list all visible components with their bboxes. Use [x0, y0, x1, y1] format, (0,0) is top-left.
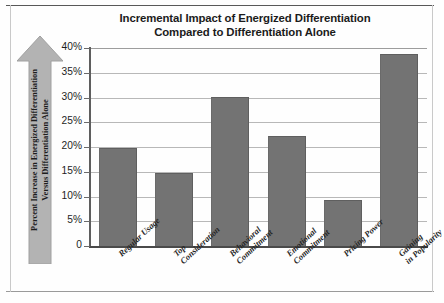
- y-axis-tick-label: 20%: [48, 140, 82, 151]
- bar: [99, 148, 137, 246]
- y-axis-tick: [84, 197, 90, 198]
- plot-area: [90, 48, 427, 246]
- gridline: [90, 197, 427, 198]
- x-axis-tick-labels: Regular UsageTopConsiderationBehavioralC…: [0, 246, 440, 303]
- y-axis-tick-label: 10%: [48, 190, 82, 201]
- chart-title-line-1: Incremental Impact of Energized Differen…: [60, 12, 430, 26]
- gridline: [90, 122, 427, 123]
- y-axis-tick: [84, 147, 90, 148]
- y-axis-tick-label: 5%: [48, 214, 82, 225]
- chart-title-line-2: Compared to Differentiation Alone: [60, 26, 430, 40]
- bar: [155, 173, 193, 246]
- y-axis-tick-label: 35%: [48, 66, 82, 77]
- y-axis-tick: [84, 172, 90, 173]
- gridline: [90, 48, 427, 49]
- y-axis-tick: [84, 73, 90, 74]
- gridline: [90, 147, 427, 148]
- bar: [268, 136, 306, 246]
- gridline: [90, 172, 427, 173]
- bar: [380, 54, 418, 246]
- y-axis-tick: [84, 48, 90, 49]
- y-axis-tick-label: 40%: [48, 41, 82, 52]
- gridline: [90, 73, 427, 74]
- y-axis-tick-label: 15%: [48, 165, 82, 176]
- y-axis-tick: [84, 221, 90, 222]
- y-axis-tick-label: 25%: [48, 115, 82, 126]
- chart-title: Incremental Impact of Energized Differen…: [60, 12, 430, 39]
- y-axis-tick: [84, 122, 90, 123]
- y-axis-tick: [84, 98, 90, 99]
- y-axis-tick: [84, 246, 90, 247]
- gridline: [90, 98, 427, 99]
- bar: [211, 97, 249, 246]
- y-axis-tick-label: 30%: [48, 91, 82, 102]
